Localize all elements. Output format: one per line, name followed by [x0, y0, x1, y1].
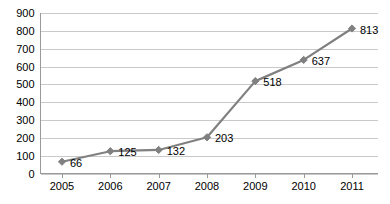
- x-axis-tick-label: 2008: [195, 180, 219, 192]
- x-axis-tick-label: 2007: [146, 180, 170, 192]
- x-axis-tick-label: 2006: [98, 180, 122, 192]
- y-axis-tick-label: 900: [16, 7, 34, 19]
- data-point-label: 813: [360, 24, 378, 36]
- y-axis-tick-label: 700: [16, 43, 34, 55]
- data-point-label: 518: [263, 76, 281, 88]
- data-series-line: [62, 29, 352, 162]
- data-point-markers: [58, 25, 355, 165]
- y-axis-tick-label: 400: [16, 96, 34, 108]
- line-chart: 0100200300400500600700800900 20052006200…: [0, 0, 390, 204]
- gridlines: [41, 14, 379, 175]
- data-point-marker: [155, 146, 162, 153]
- y-axis-tick-label: 600: [16, 61, 34, 73]
- data-point-marker: [107, 148, 114, 155]
- data-point-label: 66: [70, 157, 82, 169]
- x-axis-tick-label: 2011: [340, 180, 364, 192]
- data-point-label: 125: [118, 146, 136, 158]
- x-axis-tick-labels: 2005200620072008200920102011: [50, 180, 364, 192]
- y-axis-tick-label: 100: [16, 150, 34, 162]
- data-point-labels: 66125132203518637813: [70, 24, 378, 169]
- y-axis-tick-labels: 0100200300400500600700800900: [16, 7, 34, 180]
- y-axis-tick-label: 200: [16, 132, 34, 144]
- x-axis-tick-label: 2010: [291, 180, 315, 192]
- x-axis-tick-label: 2009: [243, 180, 267, 192]
- data-point-label: 132: [167, 145, 185, 157]
- y-axis-tick-label: 300: [16, 114, 34, 126]
- y-axis-tick-label: 0: [28, 168, 34, 180]
- data-point-label: 203: [215, 132, 233, 144]
- data-point-label: 637: [312, 55, 330, 67]
- y-axis-tick-label: 800: [16, 25, 34, 37]
- y-axis-tick-label: 500: [16, 78, 34, 90]
- chart-canvas: 0100200300400500600700800900 20052006200…: [0, 0, 390, 204]
- x-axis-tick-label: 2005: [50, 180, 74, 192]
- data-point-marker: [58, 158, 65, 165]
